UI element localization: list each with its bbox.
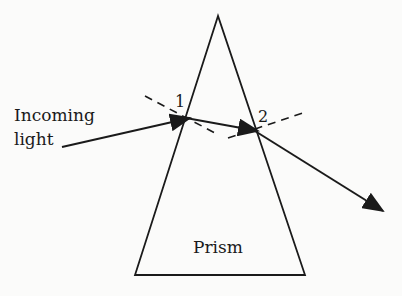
outgoing-ray	[255, 131, 383, 211]
prism-diagram: Incoming light 1 2 Prism	[0, 0, 402, 296]
point-1-label: 1	[175, 92, 185, 111]
point-2-label: 2	[258, 107, 268, 126]
incoming-light-label-line2: light	[14, 129, 54, 149]
prism-label: Prism	[193, 237, 243, 257]
internal-ray	[186, 118, 258, 131]
incoming-light-label-line1: Incoming	[14, 105, 95, 125]
